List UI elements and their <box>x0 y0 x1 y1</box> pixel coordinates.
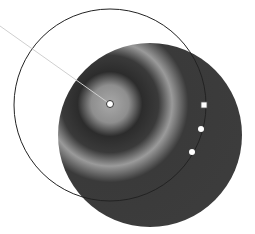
gradient-origin-handle[interactable] <box>107 101 114 108</box>
gradient-resize-handle[interactable] <box>201 102 207 108</box>
gradient-stop-handle[interactable] <box>198 126 204 132</box>
gradient-stop-handle[interactable] <box>189 149 195 155</box>
gradient-filled-shape[interactable] <box>58 43 242 227</box>
gradient-canvas[interactable] <box>0 0 255 234</box>
